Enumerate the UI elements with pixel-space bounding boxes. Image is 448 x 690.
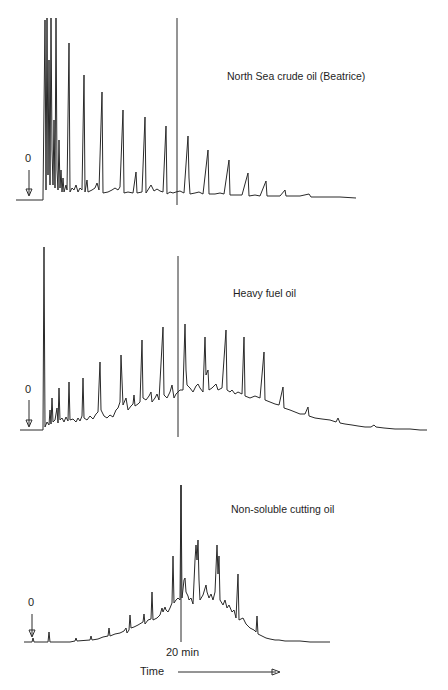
zero-label: 0 xyxy=(28,596,34,608)
trace-heavy-fuel-oil xyxy=(20,247,427,437)
marker-20min-label: 20 min xyxy=(166,646,199,658)
panel-title-cutting-oil: Non-soluble cutting oil xyxy=(231,503,334,515)
panel-title-north-sea-crude: North Sea crude oil (Beatrice) xyxy=(227,70,365,82)
zero-label: 0 xyxy=(25,152,31,164)
chromatogram-traces xyxy=(0,0,448,690)
time-axis-label: Time xyxy=(140,665,164,677)
panel-title-heavy-fuel-oil: Heavy fuel oil xyxy=(233,287,296,299)
chromatogram-figure: North Sea crude oil (Beatrice) 0 Heavy f… xyxy=(0,0,448,690)
zero-label: 0 xyxy=(25,383,31,395)
trace-north-sea-crude xyxy=(16,18,356,205)
